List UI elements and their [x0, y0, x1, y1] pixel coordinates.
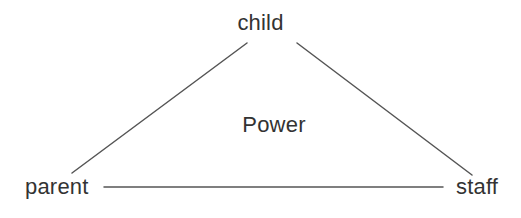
- node-label-parent: parent: [25, 176, 89, 198]
- edge-parent-child: [72, 43, 247, 173]
- node-label-staff: staff: [456, 176, 498, 198]
- edge-child-staff: [297, 43, 472, 175]
- node-label-child: child: [0, 12, 521, 34]
- center-label-power: Power: [0, 114, 521, 136]
- power-triangle-diagram: child Power parent staff: [0, 0, 521, 218]
